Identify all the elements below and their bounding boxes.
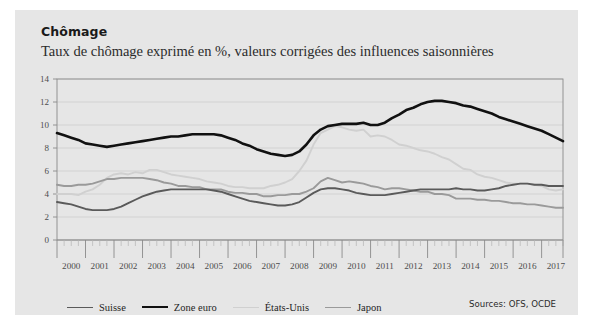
x-axis-labels: 2000200120022003200420052006200720082009… (62, 261, 565, 271)
y-tick-label: 8 (45, 143, 50, 153)
series-line-japon (57, 178, 563, 208)
x-tick-label: 2010 (347, 261, 366, 271)
x-tick-label: 2000 (62, 261, 81, 271)
y-tick-label: 12 (40, 97, 49, 107)
y-tick-label: 6 (45, 166, 50, 176)
y-tick-label: 2 (45, 212, 50, 222)
x-tick-label: 2015 (490, 261, 509, 271)
x-tick-label: 2005 (205, 261, 224, 271)
x-tick-label: 2002 (119, 261, 138, 271)
legend-label: Suisse (99, 302, 126, 313)
x-tick-label: 2016 (518, 261, 537, 271)
legend-label: Japon (357, 302, 382, 313)
gridlines-group (57, 79, 563, 240)
chart-card: Chômage Taux de chômage exprimé en %, va… (15, 10, 578, 315)
x-tick-label: 2013 (433, 261, 452, 271)
x-tick-label: 2007 (262, 261, 281, 271)
series-line-suisse (57, 184, 563, 210)
chart-page: Chômage Taux de chômage exprimé en %, va… (0, 0, 600, 326)
legend-item[interactable]: Suisse (67, 302, 126, 313)
x-tick-label: 2012 (404, 261, 423, 271)
x-tick-label: 2004 (176, 261, 195, 271)
x-tick-label: 2003 (148, 261, 167, 271)
y-axis-ticks (53, 79, 57, 240)
legend-item[interactable]: Japon (325, 302, 382, 313)
y-axis-labels: 02468101214 (40, 74, 50, 245)
series-line--tats-unis (57, 126, 563, 195)
x-axis-ticks (57, 240, 563, 258)
legend-item[interactable]: États-Unis (233, 302, 309, 313)
sources-note: Sources: OFS, OCDE (469, 299, 556, 309)
line-chart-svg: 02468101214 2000200120022003200420052006… (15, 10, 578, 315)
y-tick-label: 10 (40, 120, 50, 130)
x-tick-label: 2009 (319, 261, 338, 271)
x-tick-label: 2014 (461, 261, 480, 271)
chart-legend: SuisseZone euroÉtats-UnisJapon (67, 298, 398, 316)
plot-frame (57, 79, 563, 240)
x-tick-label: 2001 (91, 261, 110, 271)
legend-swatch-icon (142, 306, 168, 308)
legend-label: Zone euro (174, 302, 217, 313)
x-tick-label: 2006 (233, 261, 252, 271)
legend-item[interactable]: Zone euro (142, 302, 217, 313)
legend-label: États-Unis (265, 302, 309, 313)
x-tick-label: 2017 (547, 261, 566, 271)
legend-swatch-icon (67, 307, 93, 308)
y-tick-label: 0 (45, 235, 50, 245)
plot-area: 02468101214 2000200120022003200420052006… (15, 10, 578, 315)
y-tick-label: 14 (40, 74, 50, 84)
plot-border (57, 79, 563, 240)
x-tick-label: 2008 (290, 261, 309, 271)
y-tick-label: 4 (45, 189, 50, 199)
legend-swatch-icon (233, 307, 259, 308)
x-tick-label: 2011 (376, 261, 394, 271)
legend-swatch-icon (325, 307, 351, 308)
